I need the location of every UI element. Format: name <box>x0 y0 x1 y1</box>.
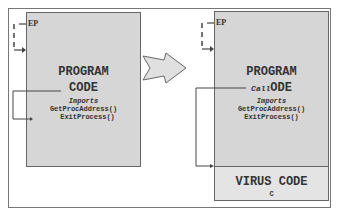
arrow-head-icon <box>22 47 26 53</box>
diagram-lines <box>0 0 339 219</box>
transformation-arrow-icon <box>143 53 186 83</box>
